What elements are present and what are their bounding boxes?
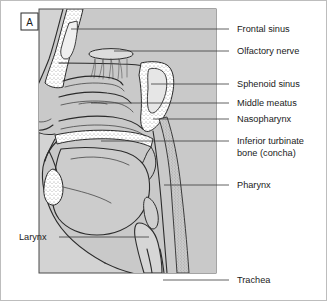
label-pharynx: Pharynx (237, 180, 271, 190)
label-nasopharynx: Nasopharynx (237, 114, 292, 124)
panel-letter-text: A (26, 17, 33, 28)
label-larynx: Larynx (19, 232, 47, 242)
olfactory-bulb (89, 49, 133, 60)
anatomy-diagram: A Frontal sinusOlfactory nerveSphenoid s… (1, 1, 327, 301)
figure-container: A Frontal sinusOlfactory nerveSphenoid s… (0, 0, 327, 301)
label-trachea: Trachea (237, 275, 271, 285)
label-inferior-turbinate-line2: bone (concha) (237, 148, 296, 158)
label-inferior-turbinate: Inferior turbinate (237, 136, 304, 146)
label-olfactory-nerve: Olfactory nerve (237, 46, 299, 56)
label-middle-meatus: Middle meatus (237, 98, 297, 108)
panel-letter-box: A (21, 13, 38, 30)
label-sphenoid-sinus: Sphenoid sinus (237, 79, 300, 89)
tongue (52, 148, 149, 235)
label-frontal-sinus: Frontal sinus (237, 24, 290, 34)
